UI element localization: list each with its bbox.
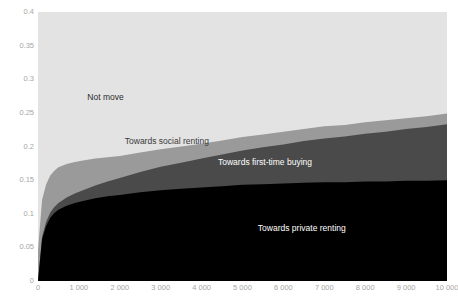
y-axis-tick-label: 0.25 xyxy=(4,109,34,117)
x-axis-tick-label: 3 000 xyxy=(151,284,170,292)
series-label: Not move xyxy=(87,93,123,102)
x-axis-tick-label: 1 000 xyxy=(70,284,89,292)
y-axis-tick-label: 0.1 xyxy=(4,210,34,218)
x-axis: 01 0002 0003 0004 0005 0006 0007 0008 00… xyxy=(38,284,447,300)
x-axis-tick-label: 0 xyxy=(36,284,40,292)
y-axis-tick-label: 0.3 xyxy=(4,75,34,83)
series-label: Towards private renting xyxy=(258,224,346,233)
y-axis-tick-label: 0.35 xyxy=(4,42,34,50)
series-label: Towards social renting xyxy=(125,137,209,146)
x-axis-tick-label: 10 000 xyxy=(436,284,458,292)
y-axis-tick-label: 0.05 xyxy=(4,243,34,251)
x-axis-tick-label: 5 000 xyxy=(233,284,252,292)
y-axis-tick-label: 0.15 xyxy=(4,176,34,184)
x-axis-tick-label: 6 000 xyxy=(274,284,293,292)
x-axis-tick-label: 7 000 xyxy=(315,284,334,292)
stacked-area-series xyxy=(38,12,447,281)
y-axis: 00.050.10.150.20.250.30.350.4 xyxy=(0,0,34,305)
chart-figure: 00.050.10.150.20.250.30.350.4 Not moveTo… xyxy=(0,0,458,305)
x-axis-tick-label: 9 000 xyxy=(397,284,416,292)
x-axis-tick-label: 2 000 xyxy=(110,284,129,292)
y-axis-tick-label: 0 xyxy=(4,277,34,285)
x-axis-tick-label: 8 000 xyxy=(356,284,375,292)
y-axis-tick-label: 0.4 xyxy=(4,8,34,16)
y-axis-tick-label: 0.2 xyxy=(4,143,34,151)
plot-area xyxy=(38,12,447,281)
x-axis-tick-label: 4 000 xyxy=(192,284,211,292)
series-label: Towards first-time buying xyxy=(218,158,312,167)
